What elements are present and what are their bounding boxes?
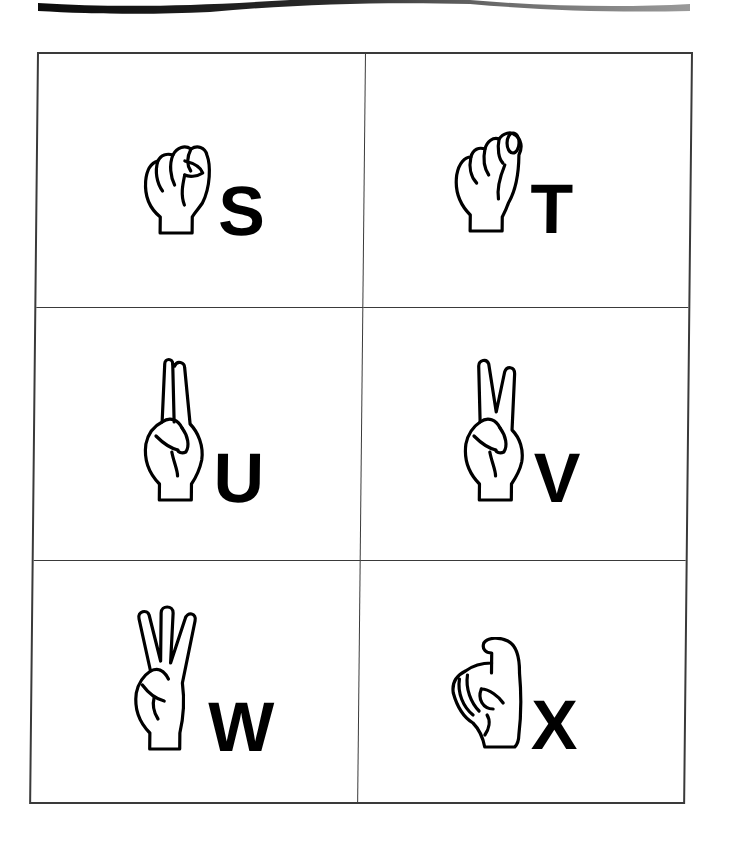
card-t: T bbox=[363, 54, 691, 308]
card-w: W bbox=[31, 561, 361, 802]
three-fingers-spread-hand-icon bbox=[130, 605, 204, 751]
fist-hand-t-icon bbox=[452, 129, 525, 233]
hooked-index-hand-icon bbox=[449, 637, 526, 749]
letter-x: X bbox=[531, 690, 578, 760]
letter-t: T bbox=[530, 174, 573, 244]
card-s: S bbox=[36, 54, 366, 308]
letter-w: W bbox=[208, 692, 275, 762]
card-grid: S T bbox=[29, 52, 693, 804]
letter-s: S bbox=[218, 176, 265, 246]
fist-hand-s-icon bbox=[140, 139, 213, 235]
letter-v: V bbox=[533, 443, 580, 513]
letter-u: U bbox=[213, 443, 264, 513]
two-fingers-together-hand-icon bbox=[141, 356, 209, 502]
two-fingers-spread-hand-icon bbox=[461, 358, 529, 502]
decorative-swoosh bbox=[0, 0, 729, 24]
card-x: X bbox=[358, 561, 686, 802]
card-v: V bbox=[361, 308, 689, 561]
card-u: U bbox=[34, 308, 364, 561]
card-grid-wrapper: S T bbox=[29, 52, 693, 804]
